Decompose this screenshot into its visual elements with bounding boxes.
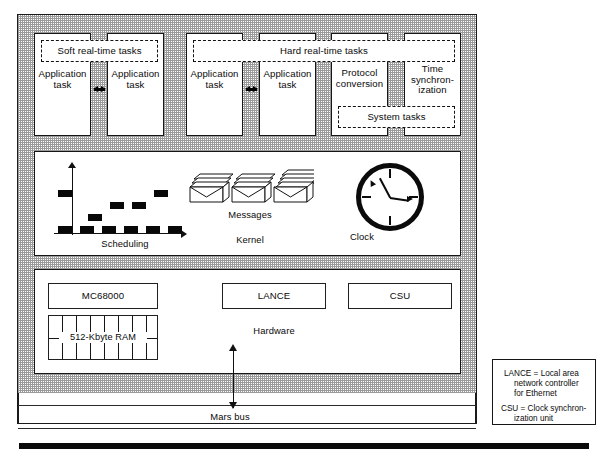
- scheduling-block: [132, 202, 146, 209]
- chart-y-axis-arrow-icon: [68, 162, 76, 168]
- scheduling-block: [58, 190, 72, 197]
- scheduling-chart: [50, 163, 200, 243]
- legend-box: LANCE = Local area network controller fo…: [492, 359, 596, 425]
- soft-real-time-tasks-group: Soft real-time tasks: [41, 40, 158, 62]
- message-stacks: [186, 166, 314, 208]
- hardware-bus-arrow-up-icon: [229, 344, 237, 351]
- legend-lance-line2: network controller: [514, 379, 579, 388]
- soft-application-task-1-label: Application task: [34, 60, 91, 100]
- hardware-label: Hardware: [222, 326, 326, 337]
- protocol-conversion-task-label: Protocol conversion: [331, 62, 388, 96]
- clock-label: Clock: [346, 232, 402, 243]
- clock-tick-9: [362, 196, 371, 199]
- diagram-canvas: Application task Application task Soft r…: [0, 0, 604, 457]
- scheduling-block: [124, 226, 138, 233]
- bus-top-rule: [18, 405, 476, 406]
- legend-csu-line1: CSU = Clock synchron-: [501, 404, 586, 413]
- legend-lance-line3: for Ethernet: [514, 389, 557, 398]
- hard-application-task-1-label: Application task: [186, 60, 243, 100]
- time-synchronization-task-label: Time synchron- ization: [404, 58, 461, 102]
- hardware-bus-arrow-down-icon: [229, 402, 237, 409]
- scheduling-block: [88, 214, 102, 221]
- hard-real-time-tasks-group: Hard real-time tasks: [193, 40, 455, 62]
- clock-tick-6: [389, 216, 392, 225]
- envelope-stack-icon: [186, 166, 314, 208]
- scheduling-block: [154, 190, 168, 197]
- clock-hour-hand-arrow-icon: [368, 179, 376, 187]
- messages-label: Messages: [186, 210, 314, 221]
- clock-minute-hand-arrow-icon: [407, 196, 413, 202]
- bus-bottom-rule: [18, 428, 476, 429]
- system-tasks-group: System tasks: [338, 106, 455, 128]
- lance-label: LANCE: [222, 283, 326, 309]
- csu-label: CSU: [348, 283, 452, 309]
- soft-task-ellipsis-arrow-icon: [94, 86, 105, 93]
- hard-task-ellipsis-arrow-icon: [246, 86, 257, 93]
- legend-lance-line1: LANCE = Local area: [504, 369, 579, 378]
- mc68000-label: MC68000: [48, 283, 158, 309]
- soft-real-time-tasks-label: Soft real-time tasks: [57, 46, 141, 57]
- page-bottom-rule: [19, 443, 589, 449]
- system-tasks-label: System tasks: [367, 112, 425, 123]
- ram-label: 512-Kbyte RAM: [48, 315, 158, 360]
- scheduling-block: [168, 226, 182, 233]
- scheduling-block: [58, 226, 72, 233]
- hard-real-time-tasks-label: Hard real-time tasks: [280, 46, 368, 57]
- chart-x-axis: [54, 233, 182, 234]
- scheduling-block: [110, 202, 124, 209]
- ram-label-text: 512-Kbyte RAM: [67, 332, 139, 342]
- soft-application-task-2-label: Application task: [107, 60, 164, 100]
- scheduling-block: [146, 226, 160, 233]
- scheduling-label: Scheduling: [50, 239, 200, 250]
- scheduling-block: [102, 226, 116, 233]
- clock-icon: [356, 163, 424, 231]
- clock-hour-hand: [379, 178, 391, 198]
- mars-bus-label: Mars bus: [170, 412, 290, 423]
- chart-y-axis: [72, 167, 73, 235]
- clock-tick-12: [389, 169, 392, 178]
- hardware-bus-arrow-line: [233, 346, 234, 408]
- scheduling-block: [80, 226, 94, 233]
- legend-csu-line2: ization unit: [514, 414, 553, 423]
- kernel-label: Kernel: [186, 235, 314, 246]
- hard-application-task-2-label: Application task: [259, 60, 316, 100]
